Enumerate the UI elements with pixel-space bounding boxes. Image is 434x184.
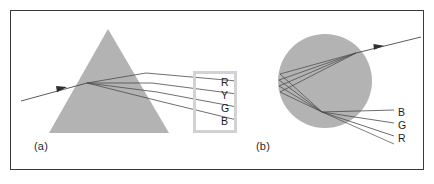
incident-ray-b xyxy=(356,37,421,53)
droplet-label-g: G xyxy=(398,120,406,130)
panel-a-label: (a) xyxy=(34,140,48,152)
legend-letter-g: G xyxy=(221,103,235,113)
prism-triangle xyxy=(49,29,169,133)
legend-letter-r: R xyxy=(221,77,235,87)
panel-b-label: (b) xyxy=(256,140,270,152)
droplet-circle xyxy=(278,34,372,128)
droplet-exit-extra xyxy=(322,112,394,144)
droplet-label-b: B xyxy=(398,107,405,117)
droplet-label-r: R xyxy=(398,133,406,143)
legend-letter-b: B xyxy=(221,116,235,126)
legend-letter-y: Y xyxy=(221,90,235,100)
optics-figure: R Y G B B G R (a) (b) xyxy=(0,0,434,184)
